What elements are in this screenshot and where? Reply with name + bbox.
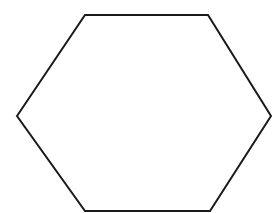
drawing-canvas [0,0,279,213]
hexagon-figure [0,0,279,213]
hexagon-shape [17,15,271,211]
